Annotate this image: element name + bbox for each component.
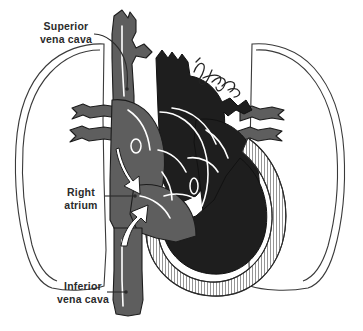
label-inferior-vena-cava-line1: Inferior — [64, 280, 102, 292]
label-right-atrium: Right atrium — [64, 186, 97, 211]
label-superior-vena-cava-line2: vena cava — [40, 33, 92, 45]
anatomy-figure: Superior vena cava Right atrium Inferior… — [0, 0, 363, 331]
heart-diagram-svg: Superior vena cava Right atrium Inferior… — [0, 0, 363, 331]
label-superior-vena-cava-line1: Superior — [44, 20, 89, 32]
label-right-atrium-line1: Right — [67, 186, 95, 198]
label-superior-vena-cava: Superior vena cava — [40, 20, 92, 45]
label-inferior-vena-cava-line2: vena cava — [57, 293, 109, 305]
label-right-atrium-line2: atrium — [64, 199, 97, 211]
label-inferior-vena-cava: Inferior vena cava — [57, 280, 109, 305]
left-lung — [15, 44, 106, 290]
